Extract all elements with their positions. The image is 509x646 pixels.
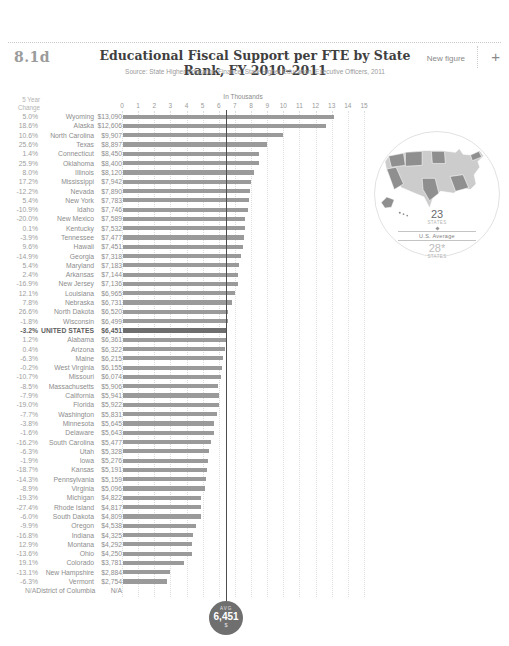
table-row: -16.9% New Jersey $7,136 xyxy=(0,279,509,288)
pct-change-value: -16.9% xyxy=(0,280,38,287)
dollar-value: $5,643 xyxy=(96,429,122,436)
new-figure-button[interactable]: New figure xyxy=(427,54,465,63)
bar xyxy=(123,198,249,202)
bar-track xyxy=(122,459,509,463)
dollar-value: $4,817 xyxy=(96,504,122,511)
state-label: Arizona xyxy=(71,346,94,353)
pct-change-value: 10.6% xyxy=(0,132,38,139)
bar-track xyxy=(122,300,509,304)
bar-track xyxy=(122,579,509,583)
dollar-value: $5,941 xyxy=(96,392,122,399)
pct-change-value: 8.0% xyxy=(0,169,38,176)
bar-track xyxy=(122,124,509,128)
axis-tick: 13 xyxy=(326,102,338,109)
pct-change-value: N/A xyxy=(0,587,36,594)
dollar-value: $4,292 xyxy=(96,541,122,548)
dollar-value: $7,589 xyxy=(96,215,122,222)
axis-tick: 3 xyxy=(164,102,176,109)
axis-tick: 1 xyxy=(132,102,144,109)
table-row: 12.9% Montana $4,292 xyxy=(0,540,509,549)
dollar-value: $6,520 xyxy=(96,308,122,315)
pct-change-value: -19.0% xyxy=(0,401,38,408)
bar xyxy=(123,328,227,332)
table-row: 0.4% Arizona $6,322 xyxy=(0,344,509,353)
table-row: -19.3% Michigan $4,822 xyxy=(0,493,509,502)
bar-track xyxy=(122,161,509,165)
axis-tick: 11 xyxy=(293,102,305,109)
bar xyxy=(123,431,214,435)
bar-track xyxy=(122,440,509,444)
table-row: -3.8% Minnesota $5,645 xyxy=(0,419,509,428)
bar xyxy=(123,533,193,537)
pct-change-value: 1.2% xyxy=(0,336,38,343)
pct-change-value: -13.1% xyxy=(0,569,38,576)
table-row: 7.8% Nebraska $6,731 xyxy=(0,298,509,307)
state-label: California xyxy=(65,392,94,399)
bar xyxy=(123,291,235,295)
avg-badge-unit: $ xyxy=(209,622,243,628)
state-label: Louisiana xyxy=(65,290,94,297)
state-label: Alaska xyxy=(74,122,94,129)
source-line: Source: State Higher Education Finance, … xyxy=(90,68,420,75)
add-figure-icon[interactable]: + xyxy=(491,49,500,64)
bar xyxy=(123,273,238,277)
dollar-value: $2,884 xyxy=(96,569,122,576)
bar xyxy=(123,393,219,397)
state-label: New Mexico xyxy=(57,215,94,222)
us-average-badge: AVG 6,451 $ xyxy=(209,601,243,635)
dollar-value: $6,215 xyxy=(96,355,122,362)
table-row: -16.2% South Carolina $5,477 xyxy=(0,437,509,446)
state-label: Hawaii xyxy=(74,243,94,250)
state-label: Michigan xyxy=(67,494,94,501)
bar xyxy=(123,161,259,165)
state-label: West Virginia xyxy=(54,364,94,371)
bar-track xyxy=(122,115,509,119)
pct-change-value: -3.9% xyxy=(0,234,38,241)
table-row: 2.4% Arkansas $7,144 xyxy=(0,270,509,279)
state-label: UNITED STATES xyxy=(41,327,94,334)
state-label: Rhode Island xyxy=(54,504,94,511)
pct-change-value: 12.1% xyxy=(0,290,38,297)
table-row: -18.7% Kansas $5,191 xyxy=(0,465,509,474)
bar xyxy=(123,542,192,546)
pct-change-value: -7.7% xyxy=(0,411,38,418)
dollar-value: $7,136 xyxy=(96,280,122,287)
bar xyxy=(123,552,192,556)
bar xyxy=(123,579,167,583)
bar xyxy=(123,170,254,174)
bar-track xyxy=(122,552,509,556)
pct-change-value: 5.4% xyxy=(0,262,38,269)
table-row: -12.2% Nevada $7,890 xyxy=(0,186,509,195)
table-row: -6.3% Utah $5,328 xyxy=(0,447,509,456)
state-label: South Dakota xyxy=(53,513,94,520)
bar-track xyxy=(122,477,509,481)
table-row: 12.1% Louisiana $6,965 xyxy=(0,289,509,298)
bar-track xyxy=(122,431,509,435)
state-label: Vermont xyxy=(69,578,94,585)
figure-page: 8.1d Educational Fiscal Support per FTE … xyxy=(0,0,509,646)
pct-change-value: 25.6% xyxy=(0,141,38,148)
bar-track xyxy=(122,570,509,574)
bar-track xyxy=(122,347,509,351)
dollar-value: $5,906 xyxy=(96,383,122,390)
bar-track xyxy=(122,180,509,184)
bar-track xyxy=(122,384,509,388)
dollar-value: N/A xyxy=(97,587,122,594)
bar xyxy=(123,421,214,425)
pct-change-value: -1.8% xyxy=(0,318,38,325)
table-row: -1.8% Wisconsin $6,499 xyxy=(0,317,509,326)
dollar-value: $12,606 xyxy=(96,122,122,129)
pct-change-value: 19.1% xyxy=(0,559,38,566)
bar xyxy=(123,384,218,388)
bar-track xyxy=(122,319,509,323)
state-label: Oklahoma xyxy=(63,160,94,167)
us-average-line xyxy=(226,110,227,602)
state-label: Georgia xyxy=(70,253,94,260)
table-row: -1.9% Iowa $5,276 xyxy=(0,456,509,465)
bar-track xyxy=(122,142,509,146)
bar xyxy=(123,496,201,500)
bar xyxy=(123,412,217,416)
table-row: -14.3% Pennsylvania $5,159 xyxy=(0,475,509,484)
pct-change-value: -8.5% xyxy=(0,383,38,390)
bar xyxy=(123,449,209,453)
